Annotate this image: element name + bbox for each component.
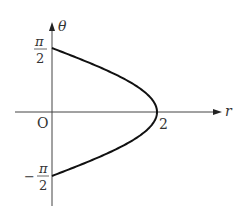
origin-label: O: [37, 115, 48, 131]
r-axis-arrow-icon: [213, 109, 222, 115]
theta-axis-arrow-icon: [49, 22, 55, 31]
r-axis-label: r: [225, 103, 233, 119]
theta-axis-label: θ: [58, 18, 67, 34]
tick-top-denominator: 2: [36, 51, 44, 66]
r-tick-2: 2: [159, 116, 168, 132]
tick-top-numerator: π: [34, 34, 44, 49]
tick-bottom-denominator: 2: [39, 178, 47, 193]
tick-bottom-numerator: π: [38, 161, 48, 176]
graph: θ r O 2 π 2 − π 2: [0, 0, 233, 215]
tick-bottom-sign: −: [24, 169, 35, 184]
